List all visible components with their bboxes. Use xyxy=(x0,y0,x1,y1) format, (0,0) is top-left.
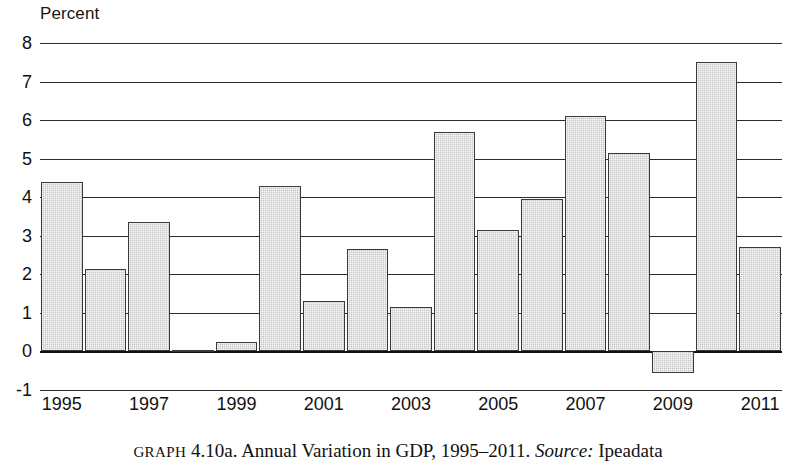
figure-caption: GRAPH 4.10a. Annual Variation in GDP, 19… xyxy=(0,440,796,462)
y-tick-label: 4 xyxy=(0,187,32,208)
bar-2000 xyxy=(259,186,301,352)
bar-2007 xyxy=(565,116,607,351)
x-tick-label: 2005 xyxy=(478,394,518,415)
x-tick-label: 1999 xyxy=(216,394,256,415)
bar-2008 xyxy=(608,153,650,352)
x-tick-label: 1995 xyxy=(42,394,82,415)
bar-series xyxy=(40,43,782,390)
y-tick-label: 0 xyxy=(0,341,32,362)
bar-1997 xyxy=(128,222,170,351)
bar-2002 xyxy=(347,249,389,351)
y-tick-label: 2 xyxy=(0,264,32,285)
bar-2003 xyxy=(390,307,432,351)
y-tick-label: 8 xyxy=(0,33,32,54)
x-axis-rule xyxy=(40,390,782,391)
bar-2011 xyxy=(739,247,781,351)
x-tick-label: 2007 xyxy=(566,394,606,415)
bar-1995 xyxy=(41,182,83,352)
caption-text: Annual Variation in GDP, 1995–2011. xyxy=(241,440,530,461)
bar-1996 xyxy=(85,269,127,352)
y-tick-label: 5 xyxy=(0,148,32,169)
x-tick-label: 2009 xyxy=(653,394,693,415)
caption-number: 4.10a. xyxy=(191,440,237,461)
caption-label: GRAPH xyxy=(133,444,186,460)
plot-area: 876543210-1 xyxy=(40,43,782,390)
bar-2005 xyxy=(477,230,519,351)
bar-2001 xyxy=(303,301,345,351)
bar-2006 xyxy=(521,199,563,351)
bar-2009 xyxy=(652,351,694,372)
y-tick-label: -1 xyxy=(0,380,32,401)
x-tick-label: 2011 xyxy=(741,394,780,415)
y-tick-label: 7 xyxy=(0,71,32,92)
y-axis-title: Percent xyxy=(40,4,99,24)
caption-source-label: Source: xyxy=(535,440,593,461)
y-tick-label: 3 xyxy=(0,225,32,246)
caption-source-value: Ipeadata xyxy=(598,440,662,461)
bar-2004 xyxy=(434,132,476,352)
bar-1998 xyxy=(172,350,214,353)
bar-1999 xyxy=(216,342,258,352)
x-tick-label: 2003 xyxy=(391,394,431,415)
gdp-variation-figure: Percent 876543210-1 19951997199920012003… xyxy=(0,0,796,474)
y-tick-label: 6 xyxy=(0,110,32,131)
bar-2010 xyxy=(696,62,738,351)
y-tick-label: 1 xyxy=(0,302,32,323)
x-tick-label: 1997 xyxy=(129,394,169,415)
x-tick-label: 2001 xyxy=(304,394,344,415)
